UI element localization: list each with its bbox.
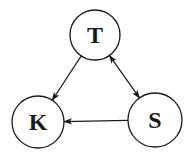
node-label: S [148,107,161,133]
node-t: T [70,10,120,60]
edges [52,55,139,121]
node-label: K [29,109,48,135]
edge-s-k [64,120,128,121]
node-k: K [12,96,64,148]
edge-t-k [52,56,81,100]
nodes: TKS [12,10,182,148]
triangle-graph: TKS [0,0,190,157]
edge-t-s [109,55,139,98]
node-s: S [128,93,182,147]
node-label: T [87,22,103,48]
